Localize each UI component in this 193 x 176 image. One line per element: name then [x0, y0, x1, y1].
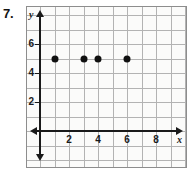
worksheet-problem-graphic: 7. 2468246xy [0, 0, 193, 176]
coordinate-grid-graph: 2468246xy [26, 6, 187, 168]
x-tick-label-6: 6 [121, 135, 133, 145]
x-tick-label-8: 8 [150, 135, 162, 145]
grid-line-horizontal [27, 117, 186, 118]
data-point [124, 55, 131, 62]
y-tick-mark [35, 102, 39, 103]
y-axis-arrow-up-icon [36, 10, 44, 17]
y-axis-label: y [29, 10, 33, 20]
data-point [95, 55, 102, 62]
grid-line-horizontal [27, 44, 186, 45]
data-point [51, 55, 58, 62]
x-axis-arrow-left-icon [30, 127, 37, 135]
x-axis-line [36, 130, 177, 132]
y-tick-label-6: 6 [26, 39, 34, 49]
x-axis-label: x [177, 135, 182, 145]
x-tick-label-4: 4 [92, 135, 104, 145]
grid-line-horizontal [27, 160, 186, 161]
x-tick-label-2: 2 [63, 135, 75, 145]
y-axis-arrow-down-icon [36, 154, 44, 161]
data-point [80, 55, 87, 62]
grid-line-horizontal [27, 30, 186, 31]
grid-line-horizontal [27, 73, 186, 74]
grid-line-horizontal [27, 102, 186, 103]
y-tick-mark [35, 44, 39, 45]
grid-line-horizontal [27, 146, 186, 147]
y-tick-label-2: 2 [26, 97, 34, 107]
y-tick-label-4: 4 [26, 68, 34, 78]
grid-line-horizontal [27, 15, 186, 16]
problem-number: 7. [3, 6, 13, 21]
y-tick-mark [35, 73, 39, 74]
y-axis-line [39, 16, 41, 155]
grid-line-horizontal [27, 88, 186, 89]
